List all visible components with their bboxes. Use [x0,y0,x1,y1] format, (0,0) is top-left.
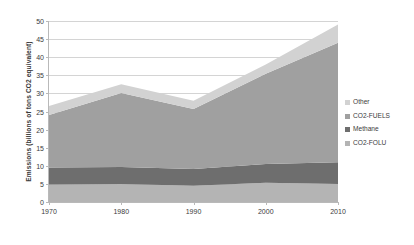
legend-item[interactable]: Methane [345,123,411,137]
y-tick-mark [46,93,49,94]
y-tick-label: 50 [36,18,44,25]
y-tick-mark [46,184,49,185]
plot-area: 05101520253035404550 1970198019902000201… [48,21,338,203]
legend-item[interactable]: CO2-FOLU [345,137,411,151]
legend-swatch-icon [345,141,350,146]
y-tick-label: 30 [36,90,44,97]
y-tick-mark [46,148,49,149]
x-tick-mark [266,202,267,205]
x-tick-mark [49,202,50,205]
chart-legend: OtherCO2-FUELSMethaneCO2-FOLU [345,96,411,150]
y-tick-label: 15 [36,144,44,151]
x-tick-mark [338,202,339,205]
y-tick-mark [46,112,49,113]
x-tick-label: 1990 [186,208,202,215]
x-tick-label: 1970 [41,208,57,215]
legend-label: Methane [353,126,379,133]
y-tick-label: 10 [36,162,44,169]
legend-label: CO2-FUELS [353,113,390,120]
emissions-area-chart: Emissions (billions of tons CO2 equivale… [0,0,414,245]
y-tick-mark [46,57,49,58]
legend-label: CO2-FOLU [353,140,386,147]
y-tick-label: 35 [36,72,44,79]
plot-inner [49,21,338,202]
y-tick-mark [46,75,49,76]
x-tick-label: 1980 [113,208,129,215]
legend-item[interactable]: Other [345,96,411,110]
x-tick-label: 2000 [258,208,274,215]
y-tick-mark [46,21,49,22]
legend-swatch-icon [345,127,350,132]
y-tick-label: 25 [36,108,44,115]
legend-swatch-icon [345,100,350,105]
x-tick-mark [121,202,122,205]
y-tick-label: 0 [40,199,44,206]
x-tick-mark [194,202,195,205]
legend-item[interactable]: CO2-FUELS [345,110,411,124]
y-tick-mark [46,166,49,167]
y-tick-label: 20 [36,126,44,133]
y-tick-mark [46,39,49,40]
y-tick-label: 40 [36,54,44,61]
legend-swatch-icon [345,114,350,119]
y-tick-label: 45 [36,36,44,43]
x-tick-label: 2010 [330,208,346,215]
y-tick-label: 5 [40,180,44,187]
y-tick-mark [46,130,49,131]
y-axis-title: Emissions (billions of tons CO2 equivale… [25,22,32,202]
stacked-area-series-group [49,21,338,202]
legend-label: Other [353,99,370,106]
